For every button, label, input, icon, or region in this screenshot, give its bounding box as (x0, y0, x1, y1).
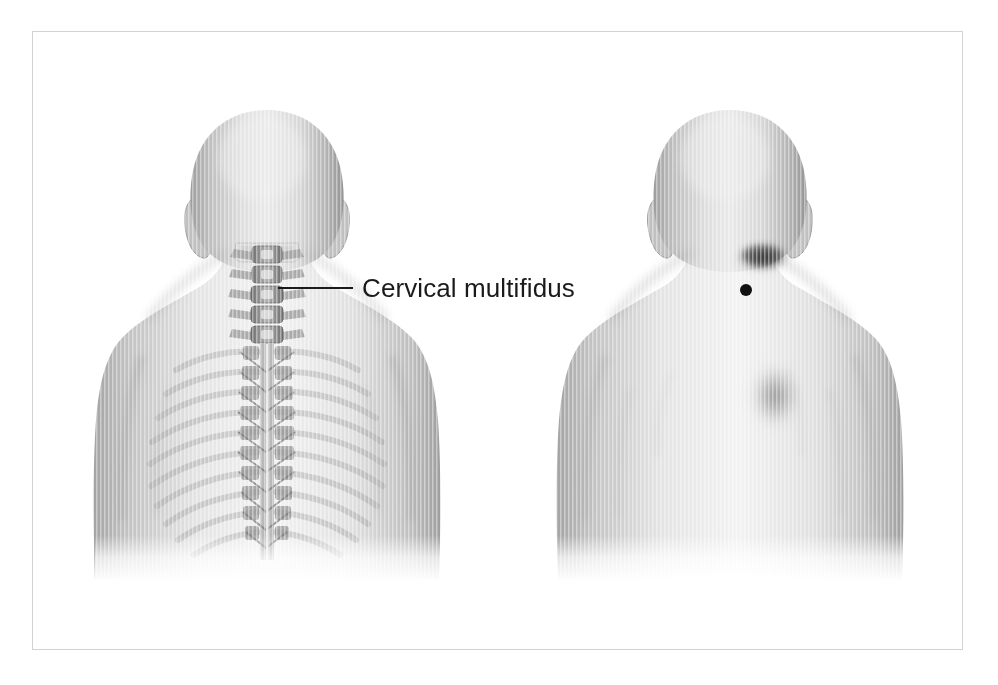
illustration-page: Cervical multifidus (0, 0, 998, 685)
posterior-surface-figure (553, 104, 909, 582)
posterior-skeletal-figure (90, 104, 446, 582)
anatomy-illustration (33, 32, 962, 649)
figure-canvas (33, 32, 962, 649)
label-cervical-multifidus: Cervical multifidus (362, 275, 575, 301)
trigger-point-dot (740, 284, 752, 296)
